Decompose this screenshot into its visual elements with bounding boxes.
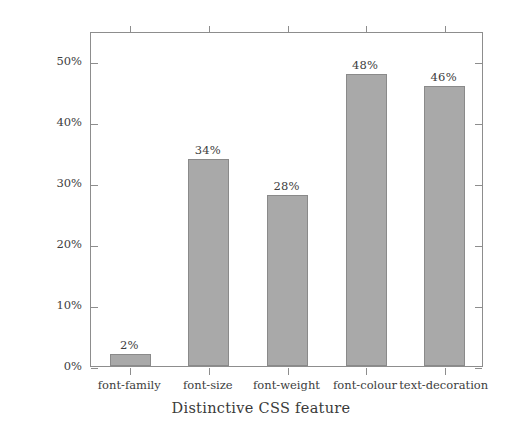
x-tick-mark-top <box>445 26 446 33</box>
x-axis-title: Distinctive CSS feature <box>0 400 522 416</box>
x-tick-mark <box>366 368 367 375</box>
y-tick-label: 50% <box>12 54 82 68</box>
y-tick-label: 40% <box>12 115 82 129</box>
y-tick-label: 10% <box>12 298 82 312</box>
x-tick-mark-top <box>130 26 131 33</box>
bar-value-label-font-weight: 28% <box>247 179 327 193</box>
y-tick-mark-right <box>475 368 482 369</box>
x-tick-label-text-decoration: text-decoration <box>384 378 504 392</box>
x-tick-mark <box>288 368 289 375</box>
y-tick-label: 20% <box>12 237 82 251</box>
x-tick-mark-top <box>366 26 367 33</box>
x-tick-mark-top <box>288 26 289 33</box>
y-tick-label: 30% <box>12 176 82 190</box>
bar-value-label-font-size: 34% <box>168 143 248 157</box>
bar-value-label-font-family: 2% <box>89 338 169 352</box>
x-tick-mark <box>209 368 210 375</box>
y-tick-mark <box>91 368 98 369</box>
x-tick-mark-top <box>209 26 210 33</box>
y-tick-label: 0% <box>12 359 82 373</box>
bar-value-label-text-decoration: 46% <box>404 70 484 84</box>
bar-value-label-font-colour: 48% <box>325 58 405 72</box>
x-tick-mark <box>445 368 446 375</box>
bar-chart-figure: e-shops in % 0%10%20%30%40%50% font-fami… <box>0 0 522 439</box>
x-tick-mark <box>130 368 131 375</box>
